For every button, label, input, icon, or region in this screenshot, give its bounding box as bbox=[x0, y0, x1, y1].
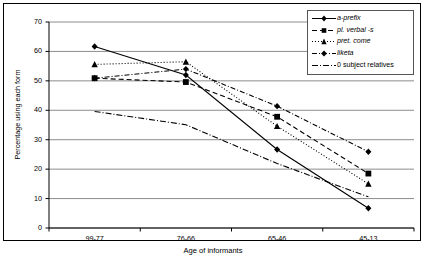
data-point bbox=[183, 66, 189, 72]
data-point bbox=[365, 205, 371, 211]
legend-item: a-prefix bbox=[311, 13, 410, 25]
legend-item: 0 subject relatives bbox=[311, 59, 410, 71]
legend-symbol-0-subject-relatives bbox=[311, 60, 337, 71]
x-axis-tick-label: 45-13 bbox=[338, 234, 398, 243]
chart-figure: Percentage using each form Age of inform… bbox=[0, 0, 426, 269]
legend-label: pl. verbal -s bbox=[337, 25, 374, 36]
data-point bbox=[92, 43, 98, 49]
data-point bbox=[274, 103, 280, 109]
data-point bbox=[274, 114, 280, 120]
data-point bbox=[365, 171, 371, 177]
y-axis-tick-label: 40 bbox=[18, 105, 42, 114]
chart-legend: a-prefix pl. verbal -s pret. come liketa bbox=[307, 10, 414, 75]
y-axis-tick-label: 30 bbox=[18, 135, 42, 144]
series-line bbox=[95, 78, 369, 173]
legend-label: a-prefix bbox=[337, 13, 361, 24]
data-point bbox=[365, 181, 371, 187]
legend-symbol-a-prefix bbox=[311, 13, 337, 24]
y-axis-tick-label: 70 bbox=[18, 17, 42, 26]
legend-label: 0 subject relatives bbox=[337, 60, 394, 71]
y-axis-tick-label: 50 bbox=[18, 76, 42, 85]
x-axis-tick-label: 76-66 bbox=[156, 234, 216, 243]
legend-item: pret. come bbox=[311, 36, 410, 48]
series-pret-come bbox=[91, 58, 371, 186]
legend-symbol-pl-verbal-s bbox=[311, 25, 337, 36]
legend-label: liketa bbox=[337, 48, 354, 59]
series-0-subject-relatives bbox=[95, 111, 369, 196]
data-point bbox=[274, 123, 280, 129]
y-axis-tick-label: 10 bbox=[18, 194, 42, 203]
y-axis-tick-label: 60 bbox=[18, 46, 42, 55]
x-axis-tick-label: 65-46 bbox=[247, 234, 307, 243]
legend-symbol-liketa bbox=[311, 48, 337, 59]
series-line bbox=[95, 111, 369, 196]
legend-symbol-pret-come bbox=[311, 36, 337, 47]
data-point bbox=[91, 61, 97, 67]
legend-label: pret. come bbox=[337, 36, 371, 47]
x-axis-label: Age of informants bbox=[0, 246, 426, 255]
data-point bbox=[183, 79, 189, 85]
y-axis-tick-label: 0 bbox=[18, 223, 42, 232]
y-axis-tick-label: 20 bbox=[18, 164, 42, 173]
legend-item: pl. verbal -s bbox=[311, 25, 410, 37]
data-point bbox=[365, 149, 371, 155]
data-point bbox=[183, 58, 189, 64]
series-pl-verbal-s bbox=[92, 75, 372, 176]
legend-item: liketa bbox=[311, 48, 410, 60]
x-axis-tick-label: 99-77 bbox=[65, 234, 125, 243]
